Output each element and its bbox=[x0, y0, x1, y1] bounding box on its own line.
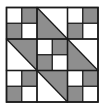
light-square bbox=[52, 55, 67, 71]
dark-square bbox=[68, 86, 83, 102]
light-square bbox=[7, 8, 22, 24]
dark-square bbox=[68, 23, 83, 39]
light-square bbox=[83, 86, 98, 102]
light-square bbox=[83, 23, 98, 39]
light-square bbox=[22, 23, 37, 39]
dark-square bbox=[7, 86, 22, 102]
quilt-block-diagram bbox=[0, 0, 105, 108]
dark-square bbox=[83, 71, 98, 87]
dark-square bbox=[52, 39, 67, 55]
light-square bbox=[7, 71, 22, 87]
light-square bbox=[37, 39, 52, 55]
light-square bbox=[68, 8, 83, 24]
light-square bbox=[22, 86, 37, 102]
dark-square bbox=[37, 55, 52, 71]
dark-square bbox=[22, 71, 37, 87]
dark-square bbox=[83, 8, 98, 24]
light-square bbox=[68, 71, 83, 87]
dark-square bbox=[22, 8, 37, 24]
dark-square bbox=[7, 23, 22, 39]
